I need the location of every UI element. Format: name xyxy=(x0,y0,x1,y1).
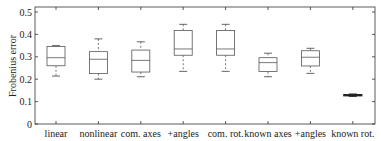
x-tick-label: +angles xyxy=(295,128,326,139)
box-iqr xyxy=(89,52,107,74)
x-tick-label: known axes xyxy=(244,128,292,139)
y-tick-label: 0 xyxy=(27,119,32,130)
x-tick-label: nonlinear xyxy=(80,128,118,139)
x-tick-label: known rot. xyxy=(331,128,374,139)
box-iqr xyxy=(301,51,319,66)
box-3 xyxy=(174,24,192,71)
box-plot-chart: 00.10.20.30.40.5 linearnonlinearcom. axe… xyxy=(0,0,381,141)
y-tick-label: 0.2 xyxy=(20,74,33,85)
x-tick-label: linear xyxy=(45,128,68,139)
box-5 xyxy=(259,53,277,77)
box-1 xyxy=(89,39,107,79)
box-iqr xyxy=(174,31,192,56)
x-tick-label: com. axes xyxy=(121,128,161,139)
y-tick-label: 0.4 xyxy=(20,29,33,40)
plot-frame xyxy=(35,7,375,124)
box-2 xyxy=(132,42,150,77)
y-axis-title: Frobenius error xyxy=(7,34,18,97)
boxes-group xyxy=(47,24,362,96)
y-axis: 00.10.20.30.40.5 xyxy=(20,7,376,130)
box-iqr xyxy=(217,31,235,56)
box-iqr xyxy=(47,46,65,65)
y-tick-label: 0.5 xyxy=(20,7,33,18)
box-7 xyxy=(344,94,362,96)
x-tick-label: +angles xyxy=(168,128,199,139)
plot-border xyxy=(35,7,375,124)
box-0 xyxy=(47,46,65,76)
box-iqr xyxy=(132,50,150,72)
x-tick-label: com. rot. xyxy=(208,128,244,139)
box-iqr xyxy=(259,58,277,72)
y-tick-label: 0.1 xyxy=(20,96,33,107)
box-4 xyxy=(217,24,235,71)
box-6 xyxy=(301,48,319,73)
y-tick-label: 0.3 xyxy=(20,51,33,62)
